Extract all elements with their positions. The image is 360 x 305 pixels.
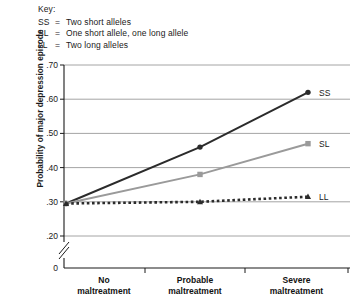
series-label-sl: SL [319,139,330,149]
series-label-ss: SS [319,88,331,98]
y-axis-origin-label: 0 [53,263,58,273]
y-axis-tick-label: .40 [46,163,58,173]
axis-break-mark [59,242,69,254]
data-point-sl [197,172,202,177]
y-axis-tick-label: .30 [46,197,58,207]
y-axis-tick-label: .50 [46,128,58,138]
series-line-ss [66,92,308,203]
x-axis-category-label: Severe [283,275,311,285]
data-point-sl [305,141,310,146]
y-axis-tick-label: .60 [46,94,58,104]
x-axis-category-label: maltreatment [77,286,131,296]
x-axis-category-label: Probable [177,275,214,285]
x-axis-category-label: maltreatment [168,286,222,296]
series-label-ll: LL [319,192,329,202]
x-axis-category-label: No [98,275,109,285]
y-axis-tick-label: .70 [46,60,58,70]
chart-plot: .70.60.50.40.30.200NomaltreatmentProbabl… [0,0,360,305]
data-point-ss [197,144,202,149]
series-line-ll [66,197,308,204]
figure-container: Key: SS = Two short alleles SL = One sho… [0,0,360,305]
axis-break-mark [59,247,69,259]
x-axis-category-label: maltreatment [270,286,324,296]
y-axis-tick-label: .20 [46,231,58,241]
data-point-ss [305,90,310,95]
